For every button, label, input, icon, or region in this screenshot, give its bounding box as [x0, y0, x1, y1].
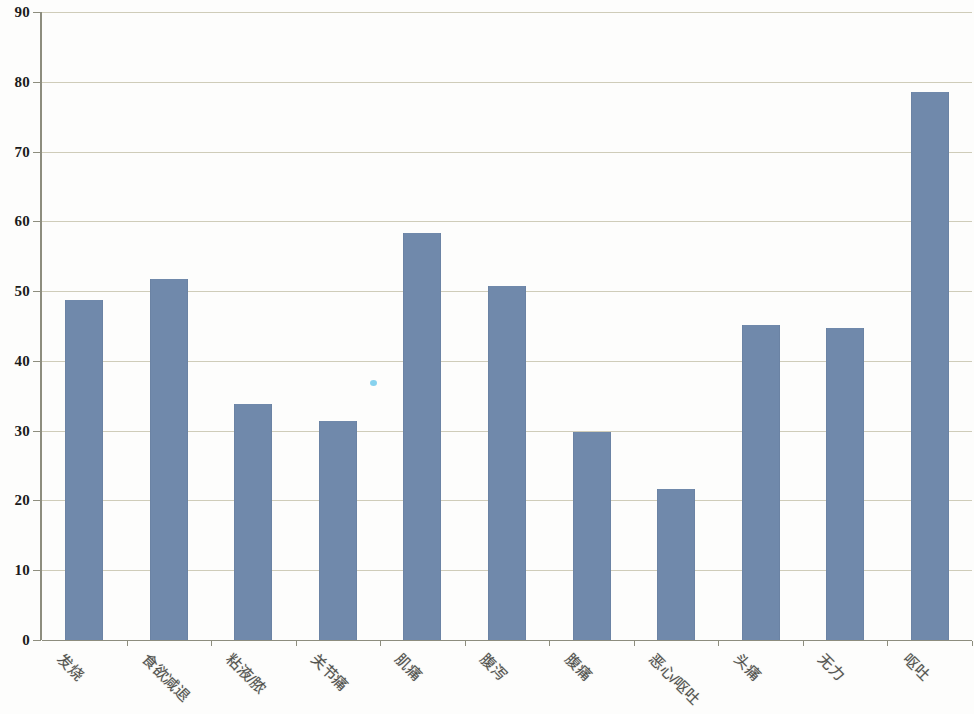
gridline — [42, 221, 972, 222]
y-tick-label: 80 — [15, 73, 30, 90]
y-tick-label: 40 — [15, 352, 30, 369]
gridline — [42, 82, 972, 83]
y-tick-mark — [33, 291, 41, 292]
bar — [911, 92, 949, 640]
x-tick-label: 腹泻 — [476, 648, 512, 684]
bar — [150, 279, 188, 640]
x-tick-label: 恶心/呕吐 — [645, 648, 705, 708]
bar — [403, 233, 441, 641]
x-tick-label: 头痛 — [730, 648, 766, 684]
y-axis-tick-labels: 0102030405060708090 — [0, 0, 36, 645]
y-tick-mark — [33, 500, 41, 501]
bar — [742, 325, 780, 640]
y-tick-label: 60 — [15, 213, 30, 230]
gridline — [42, 152, 972, 153]
y-tick-label: 10 — [15, 562, 30, 579]
y-tick-mark — [33, 640, 41, 641]
y-tick-mark — [33, 82, 41, 83]
bar-chart: 0102030405060708090 发烧食欲减退粘液/脓关节痛肌痛腹泻腹痛恶… — [0, 0, 974, 714]
y-tick-label: 50 — [15, 283, 30, 300]
bar — [657, 489, 695, 640]
bar — [826, 328, 864, 640]
x-axis-tick-labels: 发烧食欲减退粘液/脓关节痛肌痛腹泻腹痛恶心/呕吐头痛无力呕吐 — [42, 646, 972, 714]
x-tick-label: 腹痛 — [561, 648, 597, 684]
y-tick-label: 30 — [15, 422, 30, 439]
bar — [319, 421, 357, 640]
bar — [65, 300, 103, 640]
bar — [234, 404, 272, 640]
x-tick-label: 呕吐 — [899, 648, 935, 684]
y-tick-mark — [33, 12, 41, 13]
y-tick-mark — [33, 361, 41, 362]
x-tick-label: 粘液/脓 — [223, 648, 273, 698]
x-tick-label: 肌痛 — [392, 648, 428, 684]
y-tick-label: 20 — [15, 492, 30, 509]
y-tick-label: 0 — [22, 632, 30, 649]
plot-area — [42, 12, 972, 640]
scan-artifact-speck — [370, 380, 377, 386]
x-tick-label: 无力 — [814, 648, 850, 684]
x-tick-label: 食欲减退 — [138, 648, 195, 705]
x-tick-label: 发烧 — [53, 648, 89, 684]
x-axis-line — [42, 640, 972, 641]
x-tick-label: 关节痛 — [307, 648, 354, 695]
y-tick-mark — [33, 570, 41, 571]
y-tick-mark — [33, 152, 41, 153]
y-tick-mark — [33, 221, 41, 222]
bar — [488, 286, 526, 640]
x-tick-mark — [972, 641, 973, 646]
gridline — [42, 12, 972, 13]
y-tick-label: 70 — [15, 143, 30, 160]
y-tick-mark — [33, 431, 41, 432]
y-tick-label: 90 — [15, 4, 30, 21]
bar — [573, 432, 611, 640]
